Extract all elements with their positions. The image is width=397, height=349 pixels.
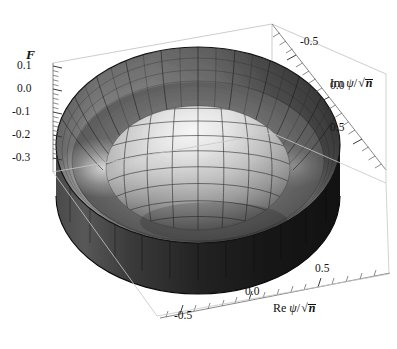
re-tick-label-2: 0.5 [315,263,329,275]
f-tick-label-3: -0.2 [12,129,30,141]
im-tick-label-2: 0.5 [330,122,344,134]
plot-canvas [0,0,397,349]
re-axis-title: Re ψ/√n [273,302,316,314]
im-axis-title-prefix: Im [330,76,343,90]
re-axis-title-prefix: Re [273,301,286,315]
im-axis-title-var: ψ [346,76,353,90]
re-tick-label-0: -0.5 [174,310,192,322]
re-axis-title-var: ψ [289,301,296,315]
f-tick-label-2: -0.1 [12,106,30,118]
f-tick-label-4: -0.3 [12,152,30,164]
im-axis-title: Im ψ/√n [330,77,373,89]
bowl-interior [56,30,340,243]
re-axis-radical: √n [300,302,316,314]
f-tick-label-1: 0.0 [17,83,31,95]
surface-plot-figure: F 0.1 0.0 -0.1 -0.2 -0.3 -0.5 0.0 0.5 Im… [0,0,397,349]
f-tick-label-0: 0.1 [17,60,31,72]
re-tick-label-1: 0.0 [245,286,259,298]
im-tick-label-0: -0.5 [300,36,318,48]
im-axis-radical: √n [357,77,373,89]
